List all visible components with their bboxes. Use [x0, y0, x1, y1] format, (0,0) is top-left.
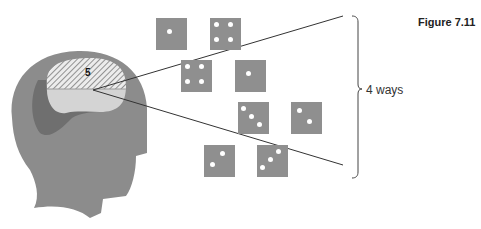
- die-pip: [228, 37, 233, 42]
- die-face-4: [181, 60, 212, 92]
- die-pip: [297, 108, 302, 113]
- die-pip: [228, 22, 233, 27]
- die-face-3: [238, 102, 269, 134]
- die-pip: [241, 106, 246, 111]
- brain-number-label: 5: [85, 67, 91, 78]
- die-pip: [268, 157, 273, 162]
- die-pip: [199, 64, 204, 69]
- die-face-2: [204, 145, 235, 177]
- die-face-2: [291, 102, 322, 134]
- die-pip: [167, 29, 172, 34]
- die-pip: [185, 79, 190, 84]
- figure-canvas: 5 Figure 7.11 4 ways: [0, 0, 481, 229]
- bracket-label: 4 ways: [366, 83, 403, 97]
- die-pip: [257, 122, 262, 127]
- die-pip: [246, 71, 251, 76]
- die-pip: [210, 162, 215, 167]
- die-face-3: [257, 145, 288, 177]
- die-face-1: [235, 60, 266, 92]
- die-pip: [185, 64, 190, 69]
- die-pip: [214, 37, 219, 42]
- die-pip: [260, 165, 265, 170]
- die-pip: [220, 151, 225, 156]
- curly-brace: [352, 16, 362, 178]
- die-face-1: [156, 18, 187, 50]
- die-face-4: [210, 18, 241, 50]
- die-pip: [307, 119, 312, 124]
- figure-title: Figure 7.11: [418, 16, 475, 28]
- die-pip: [276, 149, 281, 154]
- die-pip: [199, 79, 204, 84]
- die-pip: [214, 22, 219, 27]
- die-pip: [249, 114, 254, 119]
